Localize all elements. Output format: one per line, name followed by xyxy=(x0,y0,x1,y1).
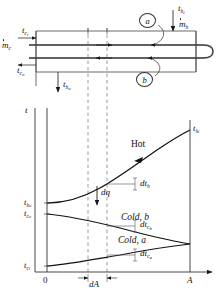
chart-cold-outlet-temp-label: tco xyxy=(24,209,31,220)
schematic-shell xyxy=(36,31,196,72)
u-tube-hairpin xyxy=(29,45,213,58)
schematic-hot-outlet-temp-label: tho xyxy=(63,80,71,92)
dq-label: dq xyxy=(101,188,110,197)
schematic-cold-massflow-label: mc xyxy=(2,41,11,51)
cold-a-curve-label: Cold, a xyxy=(118,236,146,246)
schematic-hot-inlet-temp-label: thi xyxy=(178,4,185,16)
chart-cold-inlet-temp-label: tci xyxy=(24,261,30,272)
hot-temperature-curve xyxy=(47,130,190,203)
pass-b-circle-tag: b xyxy=(136,72,153,87)
chart-origin-label: 0 xyxy=(43,276,48,285)
pass-a-circle-tag: a xyxy=(139,13,156,28)
schematic-cold-outlet-temp-label: tco xyxy=(17,66,24,78)
dt-hot-bracket xyxy=(107,178,137,190)
chart-y-axis-label: t xyxy=(25,106,28,115)
element-band-dashed-lines xyxy=(88,28,107,272)
dt-hot-label: dth xyxy=(140,179,150,189)
pass-a-leader xyxy=(151,25,164,45)
tube-flow-arrows xyxy=(96,45,112,58)
hot-curve-label: Hot xyxy=(131,140,145,150)
figure-vector-layer xyxy=(0,0,224,290)
schematic-hot-massflow-label: mh xyxy=(179,20,188,30)
dA-label: dA xyxy=(89,280,99,289)
chart-x-axis-label: A xyxy=(187,276,193,285)
dt-cold-a-bracket xyxy=(107,249,137,261)
heat-exchanger-figure: tci mc tco tho thi mh a b t A 0 dA d xyxy=(0,0,224,290)
dt-cold-b-label: dtcb xyxy=(140,220,152,232)
dt-cold-a-label: dtca xyxy=(140,249,152,261)
chart-hot-inlet-temp-label: thi xyxy=(193,124,199,135)
schematic-cold-inlet-temp-label: tci xyxy=(22,26,28,38)
